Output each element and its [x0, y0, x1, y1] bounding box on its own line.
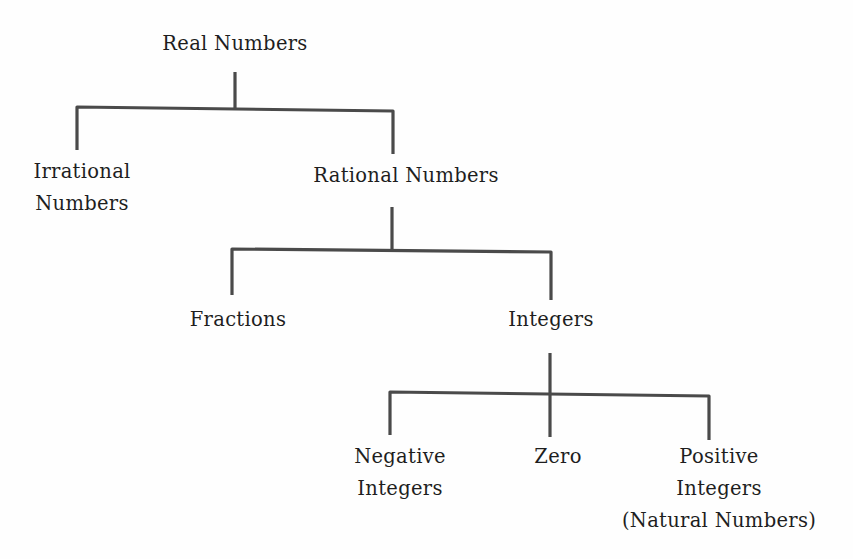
node-fractions: Fractions: [190, 304, 286, 336]
node-negative-integers: Negative Integers: [354, 441, 446, 505]
node-label: Fractions: [190, 308, 286, 331]
connector-real-bar: [77, 107, 393, 154]
node-label: Zero: [534, 445, 581, 468]
connector-rational-bar: [232, 249, 551, 300]
node-label-line: Integers: [622, 473, 816, 505]
node-integers: Integers: [508, 304, 593, 336]
node-label: Rational Numbers: [313, 164, 498, 187]
node-label-line: Integers: [354, 473, 446, 505]
node-rational-numbers: Rational Numbers: [313, 160, 498, 192]
number-classification-tree: Real Numbers Irrational Numbers Rational…: [0, 0, 853, 559]
node-positive-integers: Positive Integers (Natural Numbers): [622, 441, 816, 537]
node-label-line: Negative: [354, 441, 446, 473]
node-label-line: Numbers: [33, 188, 130, 220]
node-real-numbers: Real Numbers: [162, 28, 307, 60]
node-label-line: Irrational: [33, 156, 130, 188]
node-irrational-numbers: Irrational Numbers: [33, 156, 130, 220]
node-label: Integers: [508, 308, 593, 331]
node-label: Real Numbers: [162, 32, 307, 55]
node-label-line: Positive: [622, 441, 816, 473]
node-zero: Zero: [534, 441, 581, 473]
node-label-line: (Natural Numbers): [622, 505, 816, 537]
